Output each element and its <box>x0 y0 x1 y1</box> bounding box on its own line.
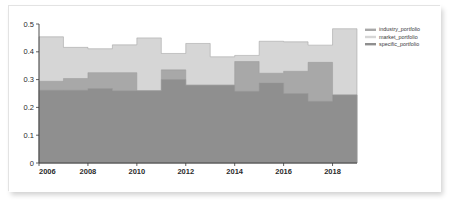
legend-swatch-specific-portfolio <box>365 43 376 45</box>
x-tick-label: 2012 <box>177 167 194 176</box>
x-tick-label: 2016 <box>275 167 292 176</box>
x-tick-label: 2006 <box>39 167 56 176</box>
legend-swatch-industry-portfolio <box>365 29 376 31</box>
x-tick-label: 2014 <box>226 167 244 176</box>
chart-container: 00.10.20.30.40.5 20062008201020122014201… <box>9 6 441 192</box>
legend-swatch-market-portfolio <box>365 36 376 38</box>
x-tick-label: 2018 <box>324 167 341 176</box>
legend-label-specific-portfolio: specific_portfolio <box>379 41 419 47</box>
legend-label-industry-portfolio: industry_portfolio <box>379 26 420 32</box>
y-tick-label: 0 <box>30 159 34 168</box>
x-tick-label: 2008 <box>80 167 97 176</box>
stacked-area-chart: 00.10.20.30.40.5 20062008201020122014201… <box>9 6 441 192</box>
x-tick-label: 2010 <box>129 167 146 176</box>
y-tick-label: 0.1 <box>24 131 34 140</box>
y-tick-label: 0.3 <box>24 75 34 84</box>
legend-label-market-portfolio: market_portfolio <box>379 34 418 40</box>
y-tick-label: 0.4 <box>24 47 34 56</box>
chart-series-group <box>39 29 357 163</box>
y-tick-label: 0.2 <box>24 103 34 112</box>
chart-legend: industry_portfoliomarket_portfoliospecif… <box>365 26 420 46</box>
chart-card: 00.10.20.30.40.5 20062008201020122014201… <box>8 5 440 191</box>
y-tick-label: 0.5 <box>24 20 34 29</box>
